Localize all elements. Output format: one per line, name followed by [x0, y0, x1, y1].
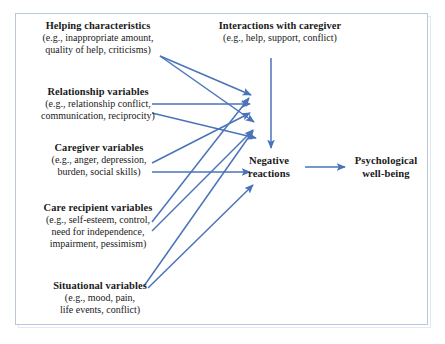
- node-situational-detail: (e.g., mood, pain, life events, conflict…: [30, 292, 170, 316]
- node-relationship-detail: (e.g., relationship conflict, communicat…: [18, 98, 178, 122]
- node-interactions-title: Interactions with caregiver: [206, 20, 354, 32]
- node-interactions-detail: (e.g., help, support, conflict): [206, 32, 354, 44]
- node-care-recipient-detail: (e.g., self-esteem, control, need for in…: [18, 214, 178, 249]
- node-psychological-well-being: Psychological well-being: [344, 155, 428, 180]
- node-relationship-variables: Relationship variables (e.g., relationsh…: [18, 86, 178, 122]
- node-caregiver-variables: Caregiver variables (e.g., anger, depres…: [24, 142, 174, 178]
- node-situational-variables: Situational variables (e.g., mood, pain,…: [30, 280, 170, 316]
- node-negative-reactions-title: Negative reactions: [238, 155, 300, 180]
- node-negative-reactions: Negative reactions: [238, 155, 300, 180]
- node-caregiver-detail: (e.g., anger, depression, burden, social…: [24, 154, 174, 178]
- node-well-being-title: Psychological well-being: [344, 155, 428, 180]
- node-interactions-with-caregiver: Interactions with caregiver (e.g., help,…: [206, 20, 354, 44]
- diagram-canvas: Helping characteristics (e.g., inappropr…: [0, 0, 445, 344]
- node-caregiver-title: Caregiver variables: [24, 142, 174, 154]
- node-helping-characteristics: Helping characteristics (e.g., inappropr…: [22, 20, 174, 56]
- node-helping-title: Helping characteristics: [22, 20, 174, 32]
- node-relationship-title: Relationship variables: [18, 86, 178, 98]
- node-care-recipient-variables: Care recipient variables (e.g., self-est…: [18, 202, 178, 250]
- node-care-recipient-title: Care recipient variables: [18, 202, 178, 214]
- node-situational-title: Situational variables: [30, 280, 170, 292]
- node-helping-detail: (e.g., inappropriate amount, quality of …: [22, 32, 174, 56]
